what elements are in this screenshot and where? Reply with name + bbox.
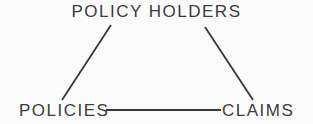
node-policy-holders: POLICY HOLDERS xyxy=(72,3,242,20)
node-policies: POLICIES xyxy=(19,102,109,119)
node-claims: CLAIMS xyxy=(222,102,294,119)
relationship-diagram: POLICY HOLDERS POLICIES CLAIMS xyxy=(0,0,313,124)
edge-policyholders-policies xyxy=(62,25,111,100)
edge-policyholders-claims xyxy=(205,27,253,100)
